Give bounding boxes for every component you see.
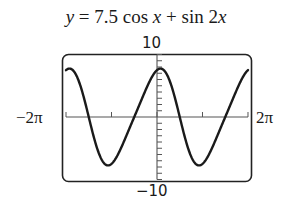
plot-area (0, 0, 292, 211)
axes (66, 55, 248, 180)
